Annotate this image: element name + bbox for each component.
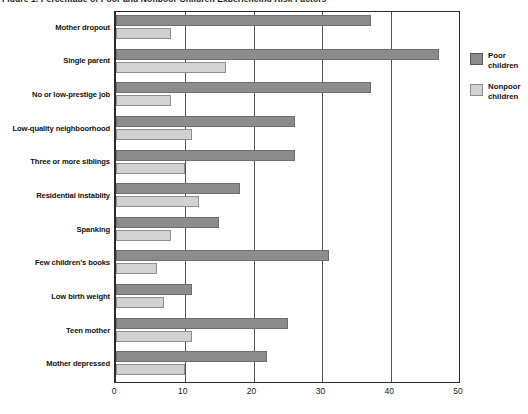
bar-group [116,315,459,349]
bar-group [116,180,459,214]
legend-label: Poor children [488,51,528,70]
x-tick-label: 20 [247,386,256,396]
bar-nonpoor [116,230,171,241]
bar-nonpoor [116,28,171,39]
figure-root: Figure 1. Percentage of Poor and Nonpoor… [0,0,528,414]
bar-poor [116,49,439,60]
bar-nonpoor [116,331,192,342]
x-tick-label: 10 [178,386,187,396]
bar-group [116,46,459,80]
bar-nonpoor [116,196,199,207]
bar-group [116,12,459,46]
bar-nonpoor [116,95,171,106]
category-label: Teen mother [2,326,110,335]
category-label: Single parent [2,56,110,65]
category-label: Low-quality neighboorhood [2,124,110,133]
legend-item-nonpoor: Nonpoor children [470,83,528,105]
x-tick-label: 50 [453,386,462,396]
plot-area [114,11,460,383]
bar-group [116,147,459,181]
bar-group [116,79,459,113]
x-tick-label: 40 [384,386,393,396]
bar-group [116,348,459,382]
bar-nonpoor [116,62,226,73]
category-label: Mother depressed [2,359,110,368]
x-axis-tick-labels: 01020304050 [114,386,460,402]
category-label: Mother dropout [2,23,110,32]
category-label: Low birth weight [2,292,110,301]
category-label: Spanking [2,225,110,234]
y-axis-category-labels: Mother dropoutSingle parentNo or low-pre… [0,11,110,383]
bar-group [116,247,459,281]
bar-poor [116,284,192,295]
bar-poor [116,150,295,161]
category-label: No or low-prestige job [2,90,110,99]
legend-item-poor: Poor children [470,52,528,74]
bar-poor [116,116,295,127]
bar-group [116,214,459,248]
bar-group [116,113,459,147]
x-tick-label: 30 [316,386,325,396]
bar-poor [116,217,219,228]
bar-nonpoor [116,364,185,375]
legend-swatch-poor [470,53,483,65]
category-label: Few children's books [2,258,110,267]
bar-nonpoor [116,297,164,308]
bar-nonpoor [116,263,157,274]
chart-legend: Poor childrenNonpoor children [470,52,528,114]
legend-label: Nonpoor children [488,82,528,101]
bar-poor [116,250,329,261]
bar-poor [116,183,240,194]
bar-poor [116,82,371,93]
bar-poor [116,15,371,26]
legend-swatch-nonpoor [470,84,483,96]
category-label: Three or more siblings [2,157,110,166]
bar-group [116,281,459,315]
bar-poor [116,351,267,362]
bar-poor [116,318,288,329]
category-label: Residential instablity [2,191,110,200]
page-title: Figure 1. Percentage of Poor and Nonpoor… [2,0,432,2]
x-tick-label: 0 [112,386,117,396]
bar-nonpoor [116,129,192,140]
bar-nonpoor [116,163,185,174]
